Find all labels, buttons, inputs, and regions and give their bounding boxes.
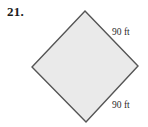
figure-container: 21. 90 ft 90 ft bbox=[0, 0, 148, 127]
side-label-top-right: 90 ft bbox=[112, 27, 130, 37]
side-label-bottom-right: 90 ft bbox=[112, 100, 130, 110]
